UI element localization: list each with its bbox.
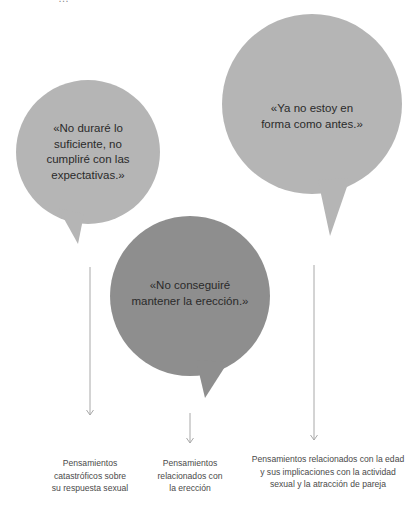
diagram-canvas — [0, 0, 420, 516]
label-line: Pensamientos — [40, 457, 140, 470]
arrow-down-icon — [311, 265, 318, 440]
label-line: sexual y la atracción de pareja — [238, 478, 418, 491]
label-catastrophic-thoughts: Pensamientos catastróficos sobre su resp… — [40, 457, 140, 495]
quote-line: expectativas.» — [28, 168, 148, 184]
label-erection-thoughts: Pensamientos relacionados con la erecció… — [145, 457, 235, 495]
quote-line: «Ya no estoy en — [242, 101, 382, 117]
quote-line: mantener la erección.» — [120, 294, 260, 310]
quote-line: forma como antes.» — [242, 117, 382, 133]
label-line: Pensamientos relacionados con la edad — [238, 453, 418, 466]
quote-line: «No conseguiré — [120, 278, 260, 294]
bubble-3-quote: «No conseguiré mantener la erección.» — [120, 278, 260, 309]
label-line: la erección — [145, 482, 235, 495]
label-line: Pensamientos — [145, 457, 235, 470]
label-line: su respuesta sexual — [40, 482, 140, 495]
bubble-1-quote: «No duraré lo suficiente, no cumpliré co… — [28, 121, 148, 183]
label-age-thoughts: Pensamientos relacionados con la edad y … — [238, 453, 418, 491]
arrow-down-icon — [87, 267, 94, 415]
bubble-2-quote: «Ya no estoy en forma como antes.» — [242, 101, 382, 132]
quote-line: cumpliré con las — [28, 152, 148, 168]
label-line: relacionados con — [145, 470, 235, 483]
label-line: y sus implicaciones con la actividad — [238, 466, 418, 479]
quote-line: «No duraré lo — [28, 121, 148, 137]
label-line: catastróficos sobre — [40, 470, 140, 483]
arrow-down-icon — [187, 413, 194, 443]
quote-line: suficiente, no — [28, 137, 148, 153]
